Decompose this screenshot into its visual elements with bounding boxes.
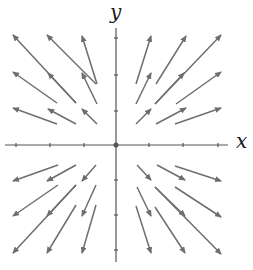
vector-arrow bbox=[136, 109, 151, 124]
y-axis-label: y bbox=[110, 2, 121, 22]
vector-field-diagram: y x bbox=[0, 0, 253, 270]
vector-arrow bbox=[137, 165, 151, 180]
vector-arrow bbox=[155, 187, 221, 254]
vector-arrow bbox=[137, 187, 151, 216]
x-axis-label: x bbox=[236, 131, 247, 151]
origin-point bbox=[114, 143, 119, 148]
vector-field-plot bbox=[0, 0, 253, 270]
vector-arrow bbox=[82, 165, 96, 181]
vector-arrow bbox=[48, 73, 76, 103]
vector-arrow bbox=[176, 72, 221, 104]
vector-arrow bbox=[82, 109, 97, 124]
